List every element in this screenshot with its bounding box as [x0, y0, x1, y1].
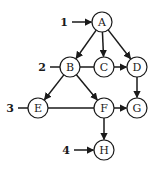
- edge-a-c: [102, 32, 103, 57]
- node-b: B: [60, 57, 80, 77]
- node-h: H: [94, 140, 114, 160]
- node-f: F: [94, 98, 114, 118]
- node-e: E: [28, 98, 48, 118]
- node-d: D: [127, 57, 147, 77]
- level-label: 3: [6, 102, 14, 115]
- node-g: G: [127, 98, 147, 118]
- graph-diagram: 1234 ABCDEFGH: [0, 0, 158, 170]
- level-marker-2: 2: [38, 61, 60, 74]
- node-label: A: [97, 16, 107, 29]
- level-marker-1: 1: [60, 16, 91, 29]
- level-label: 4: [62, 144, 70, 157]
- node-label: B: [66, 61, 74, 74]
- node-label: D: [133, 61, 142, 74]
- edge-b-e: [44, 75, 63, 100]
- node-label: G: [133, 102, 142, 115]
- level-marker-4: 4: [62, 144, 93, 157]
- node-c: C: [94, 57, 114, 77]
- edges-layer: [44, 30, 137, 140]
- node-label: C: [100, 61, 108, 74]
- node-label: E: [34, 102, 42, 115]
- edge-b-f: [76, 75, 97, 100]
- level-label: 1: [60, 16, 68, 29]
- nodes-layer: ABCDEFGH: [28, 12, 147, 160]
- node-label: F: [100, 102, 108, 115]
- node-a: A: [92, 12, 112, 32]
- level-label: 2: [38, 61, 46, 74]
- node-label: H: [99, 144, 109, 157]
- level-markers-layer: 1234: [6, 16, 93, 157]
- edge-a-d: [108, 30, 130, 59]
- level-marker-3: 3: [6, 102, 28, 115]
- edge-a-b: [76, 30, 96, 58]
